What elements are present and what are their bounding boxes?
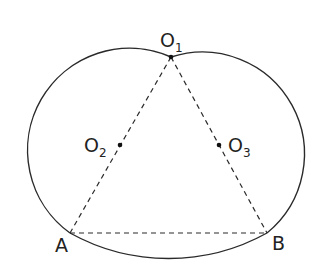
point-o1 xyxy=(169,55,174,60)
label-b: B xyxy=(272,232,285,254)
label-o2: O2 xyxy=(84,134,107,160)
bottom-arc xyxy=(70,233,267,258)
label-o1: O1 xyxy=(160,29,183,55)
label-o3: O3 xyxy=(228,134,251,160)
diagram-canvas: O1 O2 O3 A B xyxy=(0,0,335,264)
point-o2 xyxy=(118,143,123,148)
label-a: A xyxy=(55,234,68,256)
point-o3 xyxy=(217,143,222,148)
left-arc xyxy=(28,48,171,233)
